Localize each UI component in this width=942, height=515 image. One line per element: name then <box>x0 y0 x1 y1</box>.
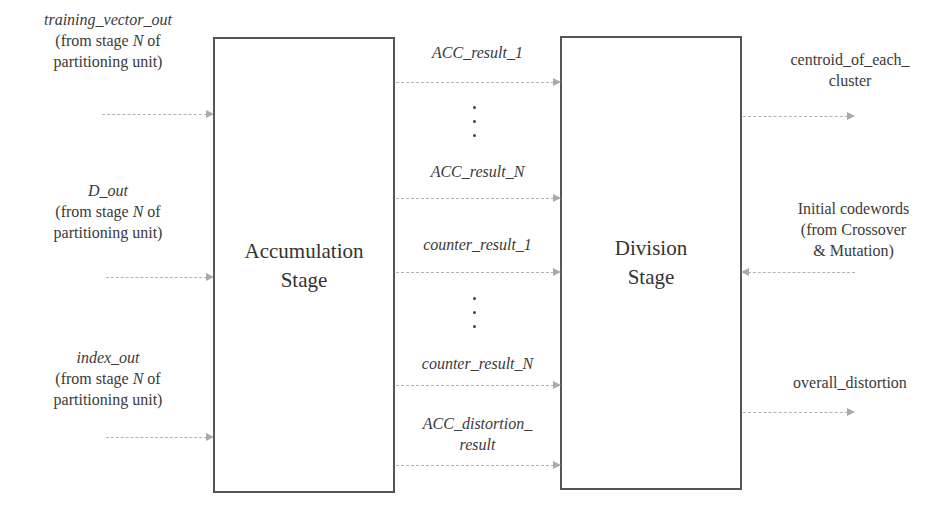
arrow-counter-result-n <box>396 385 559 386</box>
source-note: (from stage N of <box>18 368 198 389</box>
source-note-line2: partitioning unit) <box>18 222 198 243</box>
arrow-acc-result-n <box>396 198 559 199</box>
signal-counter-result-n: counter_result_N <box>395 353 560 374</box>
division-stage-title: Division Stage <box>562 234 740 292</box>
output-label-centroid: centroid_of_each_ cluster <box>765 49 935 91</box>
source-note: (from stage N of <box>18 30 198 51</box>
signal-acc-result-1: ACC_result_1 <box>395 42 560 63</box>
ellipsis-acc-results <box>473 106 477 148</box>
input-label-initial-codewords: Initial codewords (from Crossover & Muta… <box>765 198 942 261</box>
arrow-acc-distortion-result <box>396 465 559 466</box>
signal-counter-result-1: counter_result_1 <box>395 234 560 255</box>
input-label-d-out: D_out (from stage N of partitioning unit… <box>18 180 198 243</box>
arrow-acc-result-1 <box>396 82 559 83</box>
ellipsis-counter-results <box>473 297 477 339</box>
source-note: (from stage N of <box>18 201 198 222</box>
arrow-overall-distortion-out <box>743 412 853 413</box>
arrow-index-out-in <box>106 437 212 438</box>
arrow-centroid-out <box>743 116 853 117</box>
signal-d-out: D_out <box>18 180 198 201</box>
arrow-initial-codewords-in <box>743 272 855 273</box>
input-label-index-out: index_out (from stage N of partitioning … <box>18 347 198 410</box>
arrow-counter-result-1 <box>396 272 559 273</box>
input-label-training-vector: training_vector_out (from stage N of par… <box>18 9 198 72</box>
accumulation-stage-block: Accumulation Stage <box>213 37 395 493</box>
arrow-d-out-in <box>106 277 212 278</box>
source-note-line2: partitioning unit) <box>18 51 198 72</box>
arrow-training-vector-in <box>102 114 212 115</box>
signal-acc-distortion-result: ACC_distortion_ result <box>395 413 560 455</box>
source-note-line2: partitioning unit) <box>18 389 198 410</box>
accumulation-stage-title: Accumulation Stage <box>215 237 393 295</box>
signal-index-out: index_out <box>18 347 198 368</box>
output-label-overall-distortion: overall_distortion <box>765 372 935 393</box>
signal-training-vector-out: training_vector_out <box>18 9 198 30</box>
division-stage-block: Division Stage <box>560 36 742 490</box>
signal-acc-result-n: ACC_result_N <box>395 161 560 182</box>
